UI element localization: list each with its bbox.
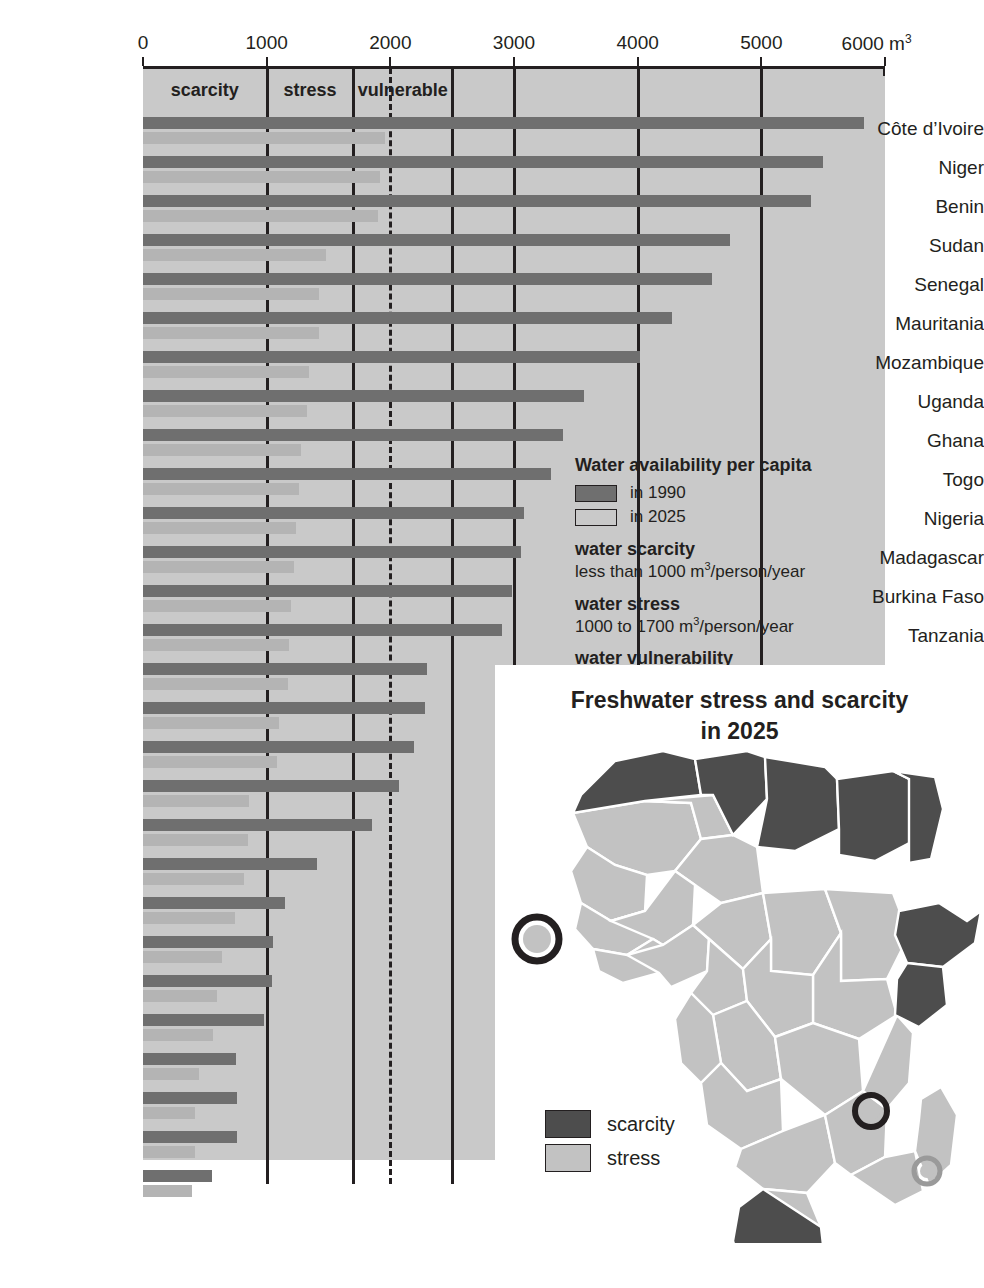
- bar-1990: [143, 741, 414, 753]
- x-tick-label-6000: 6000 m3: [842, 32, 912, 55]
- country-label: Niger: [851, 157, 984, 179]
- bar-1990: [143, 936, 273, 948]
- bar-1990: [143, 1053, 236, 1065]
- bar-2025: [143, 1068, 199, 1080]
- country-label: Uganda: [851, 391, 984, 413]
- chart-legend: Water availability per capita in 1990in …: [575, 455, 895, 691]
- map-legend-label: scarcity: [607, 1113, 675, 1136]
- x-axis-end-cap: [883, 66, 885, 76]
- bar-1990: [143, 351, 640, 363]
- x-tick-label-0: 0: [138, 32, 149, 54]
- bar-row: Mauritania: [0, 307, 984, 346]
- bar-2025: [143, 990, 217, 1002]
- bar-2025: [143, 366, 309, 378]
- bar-1990: [143, 1092, 237, 1104]
- country-label: Sudan: [851, 235, 984, 257]
- country-label: Mozambique: [851, 352, 984, 374]
- x-tick-4000: [637, 57, 639, 66]
- x-tick-label-5000: 5000: [740, 32, 782, 54]
- bar-2025: [143, 483, 299, 495]
- x-tick-1000: [266, 57, 268, 66]
- x-tick-label-4000: 4000: [617, 32, 659, 54]
- bar-2025: [143, 756, 277, 768]
- map-legend-row: scarcity: [545, 1110, 675, 1138]
- country-label: Mauritania: [851, 313, 984, 335]
- bar-1990: [143, 468, 551, 480]
- bar-1990: [143, 312, 672, 324]
- bar-2025: [143, 873, 244, 885]
- bar-2025: [143, 405, 307, 417]
- bar-2025: [143, 1107, 195, 1119]
- bar-2025: [143, 912, 235, 924]
- bar-row: Mozambique: [0, 346, 984, 385]
- bar-1990: [143, 429, 563, 441]
- bar-2025: [143, 561, 294, 573]
- bar-1990: [143, 975, 272, 987]
- bar-2025: [143, 834, 248, 846]
- bar-2025: [143, 951, 222, 963]
- bar-1990: [143, 1170, 212, 1182]
- bar-1990: [143, 585, 512, 597]
- country-label: Senegal: [851, 274, 984, 296]
- map-legend-label: stress: [607, 1147, 660, 1170]
- bar-2025: [143, 795, 249, 807]
- bar-2025: [143, 444, 301, 456]
- bar-1990: [143, 780, 399, 792]
- bar-2025: [143, 1185, 192, 1197]
- bar-1990: [143, 234, 730, 246]
- bar-2025: [143, 600, 291, 612]
- bar-row: Uganda: [0, 385, 984, 424]
- country-label: Benin: [851, 196, 984, 218]
- bar-2025: [143, 639, 289, 651]
- map-title: Freshwater stress and scarcity in 2025: [495, 685, 984, 747]
- map-legend-swatch-scarcity: [545, 1110, 591, 1138]
- legend-series-list: in 1990in 2025: [575, 483, 895, 527]
- bar-row: Niger: [0, 151, 984, 190]
- country-label: Côte d’Ivoire: [851, 118, 984, 140]
- bar-2025: [143, 1029, 213, 1041]
- bar-1990: [143, 897, 285, 909]
- bar-2025: [143, 210, 378, 222]
- bar-2025: [143, 288, 319, 300]
- bar-1990: [143, 195, 811, 207]
- x-tick-label-1000: 1000: [246, 32, 288, 54]
- bar-1990: [143, 507, 524, 519]
- map-legend-row: stress: [545, 1144, 675, 1172]
- bar-2025: [143, 1146, 195, 1158]
- bar-row: Senegal: [0, 268, 984, 307]
- definition-body: 1000 to 1700 m3/person/year: [575, 615, 895, 637]
- band-label-scarcity: scarcity: [171, 80, 239, 101]
- x-tick-3000: [513, 57, 515, 66]
- band-label-stress: stress: [283, 80, 336, 101]
- x-tick-2000: [389, 57, 391, 66]
- definition-body: less than 1000 m3/person/year: [575, 560, 895, 582]
- map-panel: Freshwater stress and scarcity in 2025: [495, 665, 984, 1288]
- legend-swatch-1990: [575, 485, 617, 502]
- bar-1990: [143, 858, 317, 870]
- bar-2025: [143, 327, 319, 339]
- bar-2025: [143, 132, 385, 144]
- map-legend-swatch-stress: [545, 1144, 591, 1172]
- bar-1990: [143, 546, 521, 558]
- definition-heading: water stress: [575, 594, 895, 615]
- bar-1990: [143, 1014, 264, 1026]
- bar-1990: [143, 702, 425, 714]
- bar-2025: [143, 678, 288, 690]
- bar-1990: [143, 663, 427, 675]
- x-tick-label-2000: 2000: [369, 32, 411, 54]
- bar-1990: [143, 273, 712, 285]
- bar-1990: [143, 1131, 237, 1143]
- bar-row: Côte d’Ivoire: [0, 112, 984, 151]
- legend-title: Water availability per capita: [575, 455, 895, 476]
- legend-series-label: in 2025: [630, 507, 686, 527]
- definition-heading: water scarcity: [575, 539, 895, 560]
- legend-swatch-2025: [575, 509, 617, 526]
- bar-1990: [143, 819, 372, 831]
- bar-2025: [143, 171, 380, 183]
- bar-row: Benin: [0, 190, 984, 229]
- map-legend: scarcitystress: [545, 1110, 675, 1178]
- bar-1990: [143, 624, 502, 636]
- country-label: Ghana: [851, 430, 984, 452]
- x-tick-5000: [760, 57, 762, 66]
- bar-1990: [143, 390, 584, 402]
